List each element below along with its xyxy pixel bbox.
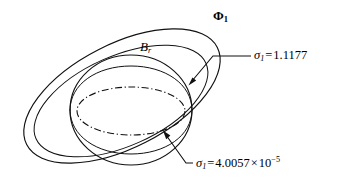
sigma-top-leader-line [192, 56, 251, 81]
label-sigma-top-value: 1.1177 [273, 48, 307, 62]
label-outer-set-subscript: 1 [224, 14, 228, 24]
diagram-canvas [0, 0, 347, 192]
label-sigma-bottom-exponent: −5 [271, 155, 280, 164]
ball-equator-upper [70, 66, 192, 110]
ball-equator-lower [70, 110, 192, 154]
sigma-bottom-leader-line [166, 135, 193, 163]
label-sigma-top-operator: = [264, 48, 273, 62]
label-sigma-bottom-value: 4.0057 [215, 156, 249, 170]
sigma-bottom-arrowhead-icon [163, 131, 170, 140]
ball-circle-path [70, 55, 192, 165]
ball-circle [70, 55, 192, 165]
secondary-tilted-ellipse-path [18, 22, 225, 180]
ball-equator-upper-path [70, 66, 192, 110]
label-sigma-bottom: σ1=4.0057×10−5 [196, 156, 280, 171]
label-sigma-bottom-base: 10 [259, 156, 272, 170]
label-ball-symbol: B [140, 39, 148, 54]
inner-dashdot-ellipse [77, 87, 185, 135]
label-sigma-bottom-times-icon: × [250, 156, 259, 170]
ball-equator-lower-path [70, 110, 192, 154]
label-outer-set: Φ1 [213, 9, 228, 24]
sigma-top-arrowhead-icon [189, 77, 197, 85]
label-sigma-top: σ1=1.1177 [254, 49, 307, 63]
sigma-bottom-leader [163, 131, 193, 164]
label-sigma-bottom-operator: = [206, 156, 215, 170]
inner-dashdot-ellipse-path [77, 87, 185, 135]
label-ball: Br [140, 40, 151, 55]
label-ball-subscript: r [148, 46, 151, 55]
label-outer-set-symbol: Φ [213, 8, 224, 23]
figure-container: Φ1 Br σ1=1.1177 σ1=4.0057×10−5 [0, 0, 347, 192]
secondary-tilted-ellipse [18, 22, 225, 180]
